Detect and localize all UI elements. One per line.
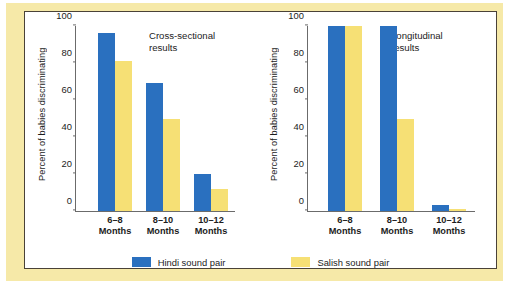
y-tick-label-longitudinal-80: 80 (294, 47, 304, 58)
legend-item-salish: Salish sound pair (291, 257, 389, 268)
y-tick-label-longitudinal-20: 20 (294, 158, 304, 169)
y-tick-mark-cross-sectional-20 (73, 172, 77, 173)
bar-group-longitudinal-2: 10–12 Months (432, 26, 466, 211)
bar-cross-sectional-salish-2 (211, 189, 228, 211)
y-tick-label-longitudinal-100: 100 (288, 10, 304, 21)
y-tick-label-cross-sectional-20: 20 (62, 158, 72, 169)
y-tick-mark-longitudinal-40 (305, 135, 309, 136)
plot-area-cross-sectional: 0204060801006–8 Months8–10 Months10–12 M… (75, 26, 235, 212)
bar-group-longitudinal-0: 6–8 Months (328, 26, 362, 211)
legend-label-salish: Salish sound pair (317, 257, 389, 268)
x-axis-label-longitudinal-2: 10–12 Months (433, 215, 466, 237)
bar-longitudinal-salish-0 (345, 26, 362, 211)
y-tick-label-cross-sectional-80: 80 (62, 47, 72, 58)
y-tick-label-cross-sectional-100: 100 (56, 10, 72, 21)
x-axis-label-cross-sectional-0: 6–8 Months (99, 215, 132, 237)
plot-area-longitudinal: 0204060801006–8 Months8–10 Months10–12 M… (307, 26, 475, 212)
legend-label-hindi: Hindi sound pair (158, 257, 226, 268)
y-tick-mark-longitudinal-100 (305, 24, 309, 25)
y-axis-title-longitudinal: Percent of babies discriminating (267, 16, 281, 212)
bar-cross-sectional-hindi-2 (194, 174, 211, 211)
bar-group-cross-sectional-2: 10–12 Months (194, 26, 228, 211)
y-tick-mark-longitudinal-60 (305, 98, 309, 99)
y-tick-mark-longitudinal-20 (305, 172, 309, 173)
bar-cross-sectional-hindi-1 (146, 83, 163, 211)
x-axis-label-cross-sectional-2: 10–12 Months (195, 215, 228, 237)
bar-longitudinal-hindi-0 (328, 26, 345, 211)
y-tick-mark-longitudinal-0 (305, 209, 309, 210)
y-axis-title-cross-sectional: Percent of babies discriminating (35, 16, 49, 212)
y-tick-label-cross-sectional-60: 60 (62, 84, 72, 95)
y-tick-mark-longitudinal-80 (305, 61, 309, 62)
x-axis-label-cross-sectional-1: 8–10 Months (147, 215, 180, 237)
y-tick-mark-cross-sectional-60 (73, 98, 77, 99)
y-tick-label-cross-sectional-0: 0 (67, 195, 72, 206)
figure-outer-frame: Percent of babies discriminating Cross-s… (6, 3, 503, 281)
y-tick-label-longitudinal-60: 60 (294, 84, 304, 95)
y-tick-mark-cross-sectional-0 (73, 209, 77, 210)
bar-cross-sectional-salish-1 (163, 119, 180, 212)
chart-panel-longitudinal: Percent of babies discriminating Longitu… (263, 16, 487, 248)
chart-legend: Hindi sound pair Salish sound pair (31, 252, 490, 272)
legend-item-hindi: Hindi sound pair (132, 257, 226, 268)
bar-longitudinal-hindi-2 (432, 205, 449, 211)
bar-cross-sectional-hindi-0 (98, 33, 115, 211)
x-axis-label-longitudinal-1: 8–10 Months (381, 215, 414, 237)
y-tick-mark-cross-sectional-100 (73, 24, 77, 25)
bar-longitudinal-salish-2 (449, 209, 466, 211)
y-tick-label-longitudinal-40: 40 (294, 121, 304, 132)
bar-longitudinal-salish-1 (397, 119, 414, 212)
bar-group-longitudinal-1: 8–10 Months (380, 26, 414, 211)
bar-cross-sectional-salish-0 (115, 61, 132, 211)
chart-panel-cross-sectional: Percent of babies discriminating Cross-s… (31, 16, 247, 248)
y-tick-label-cross-sectional-40: 40 (62, 121, 72, 132)
y-tick-mark-cross-sectional-40 (73, 135, 77, 136)
bar-group-cross-sectional-0: 6–8 Months (98, 26, 132, 211)
y-tick-label-longitudinal-0: 0 (299, 195, 304, 206)
x-axis-label-longitudinal-0: 6–8 Months (329, 215, 362, 237)
legend-swatch-hindi-icon (132, 257, 151, 267)
figure-inner-panel: Percent of babies discriminating Cross-s… (24, 11, 497, 269)
y-tick-mark-cross-sectional-80 (73, 61, 77, 62)
bar-group-cross-sectional-1: 8–10 Months (146, 26, 180, 211)
legend-swatch-salish-icon (291, 257, 310, 267)
bar-longitudinal-hindi-1 (380, 26, 397, 211)
